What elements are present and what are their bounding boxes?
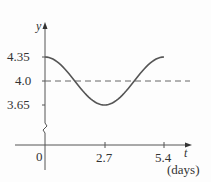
axis-break-icon bbox=[43, 123, 47, 133]
y-tick-label-3.65: 3.65 bbox=[7, 98, 30, 111]
chart: y 4.35 4.0 3.65 0 2.7 5.4 t (days) bbox=[0, 0, 211, 182]
y-tick-label-4.35: 4.35 bbox=[7, 50, 30, 63]
y-axis-label: y bbox=[36, 20, 41, 32]
unit-label: (days) bbox=[167, 163, 200, 176]
t-axis-label: t bbox=[184, 147, 187, 159]
y-tick-label-4.0: 4.0 bbox=[15, 74, 31, 87]
y-axis-arrow-icon bbox=[43, 22, 48, 29]
x-tick-label-0: 0 bbox=[36, 150, 43, 163]
x-tick-label-2.7: 2.7 bbox=[96, 151, 112, 164]
